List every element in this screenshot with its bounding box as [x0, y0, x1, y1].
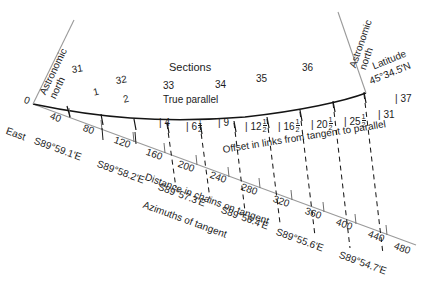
offset-fraction: 12: [263, 118, 267, 134]
section-number-33: 33: [163, 81, 174, 91]
offset-bar: |: [395, 93, 398, 104]
true-parallel-label: True parallel: [163, 95, 218, 105]
offset-whole: 31: [383, 109, 394, 120]
offset-whole: 12: [250, 121, 261, 132]
offset-whole: 9: [223, 117, 229, 128]
offset-bar: |: [245, 121, 248, 132]
sections-heading: Sections: [169, 62, 211, 73]
offset-bar: |: [186, 121, 189, 132]
section-number-31: 31: [71, 63, 84, 75]
offset-bar: |: [218, 117, 221, 128]
offset-value-6-half: | 612: [186, 118, 202, 134]
section-number-35: 35: [256, 74, 267, 84]
offset-whole: 16: [283, 121, 294, 132]
offset-fraction: 12: [198, 118, 202, 134]
offset-value-12-half: | 1212: [245, 118, 267, 134]
offset-value-37: | 37: [395, 94, 412, 104]
offset-bar: |: [278, 121, 281, 132]
section-number-34: 34: [215, 80, 226, 90]
section-number-32: 32: [115, 74, 128, 86]
offset-value-9: | 9: [218, 118, 229, 128]
offset-whole: 6: [191, 121, 197, 132]
offset-bar: |: [159, 117, 162, 128]
offset-whole: 4: [164, 117, 170, 128]
survey-tangent-offset-diagram: Astronomic north Astronomic north Latitu…: [0, 0, 429, 293]
offset-whole: 37: [400, 93, 411, 104]
offset-value-4: | 4: [159, 118, 170, 128]
section-number-36: 36: [302, 63, 313, 73]
